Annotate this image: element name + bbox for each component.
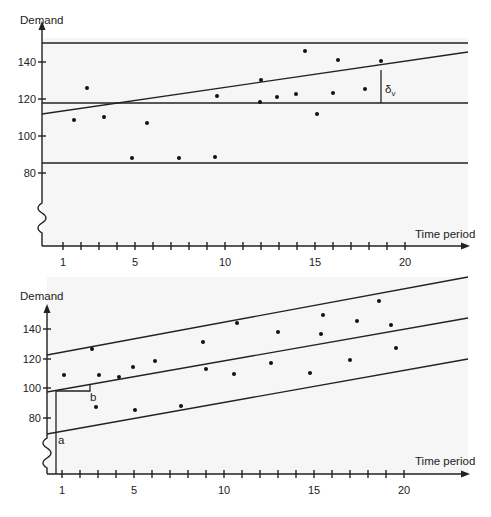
y-tick-label: 120 — [23, 353, 41, 365]
bottom-chart: Demand 140 120 100 80 — [20, 277, 475, 496]
y-axis-title: Demand — [20, 290, 63, 302]
x-tick-label: 5 — [131, 484, 137, 496]
y-tick-label: 80 — [29, 412, 41, 424]
y-tick-label: 140 — [23, 323, 41, 335]
y-tick-label: 120 — [18, 93, 36, 105]
x-tick-label: 20 — [398, 484, 410, 496]
y-tick-label: 80 — [24, 167, 36, 179]
x-tick-label: 20 — [399, 256, 411, 268]
figure: Demand 140 120 100 80 — [0, 0, 491, 517]
x-tick-label: 10 — [218, 484, 230, 496]
y-tick-label: 100 — [18, 130, 36, 142]
x-axis-title: Time period — [415, 455, 475, 467]
x-tick-label: 5 — [132, 256, 138, 268]
x-tick-label: 15 — [309, 256, 321, 268]
slope-b-label: b — [90, 391, 96, 403]
top-chart: Demand 140 120 100 80 — [18, 14, 476, 268]
x-tick-label: 1 — [59, 484, 65, 496]
intercept-a-label: a — [58, 434, 65, 446]
x-tick-label: 15 — [308, 484, 320, 496]
plot-background — [42, 38, 468, 246]
y-tick-label: 100 — [23, 382, 41, 394]
x-tick-label: 1 — [60, 256, 66, 268]
y-tick-label: 140 — [18, 56, 36, 68]
x-axis-title: Time period — [415, 228, 475, 240]
x-tick-label: 10 — [219, 256, 231, 268]
